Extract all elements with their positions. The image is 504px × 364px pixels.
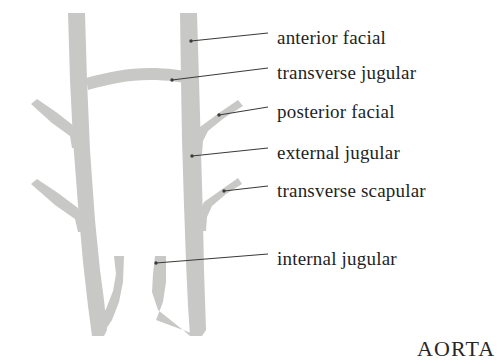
aorta-label: AORTA [417,336,495,362]
leader-internal-jugular [156,254,268,263]
dot-transverse-jugular [170,78,173,81]
leader-lines [156,33,268,263]
label-external-jugular: external jugular [277,142,400,164]
label-transverse-jugular: transverse jugular [277,62,416,84]
dot-posterior-facial [217,113,220,116]
vessel-group [31,13,243,336]
vessel-diagram [0,0,504,364]
label-posterior-facial: posterior facial [277,101,395,123]
dot-transverse-scapular [222,189,225,192]
dot-anterior-facial [189,39,192,42]
leader-external-jugular [192,148,268,156]
posterior-facial-branch [194,100,243,154]
label-anterior-facial: anterior facial [277,27,386,49]
figure-canvas: anterior facial transverse jugular poste… [0,0,504,364]
transverse-scapular-branch [198,178,242,231]
dot-external-jugular [190,154,193,157]
label-transverse-scapular: transverse scapular [277,180,426,202]
dot-internal-jugular [154,261,157,264]
leader-anterior-facial [191,33,268,41]
left-external-jugular-trunk [68,13,107,336]
label-internal-jugular: internal jugular [277,248,397,270]
right-external-jugular-trunk [180,13,206,336]
